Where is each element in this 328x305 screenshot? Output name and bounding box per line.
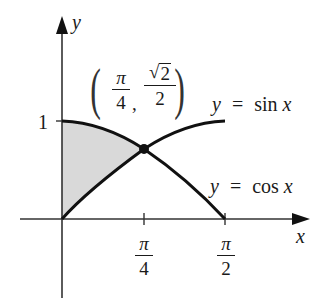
x-tick-label-pi-4: π 4 <box>135 234 153 278</box>
x-tick-label-pi-2: π 2 <box>217 234 235 278</box>
label-x: x <box>283 93 292 115</box>
label-x: x <box>284 175 293 197</box>
label-y: y <box>210 175 219 197</box>
fraction-bar <box>135 255 153 256</box>
figure-canvas <box>0 0 328 305</box>
tick-denominator: 2 <box>221 259 231 278</box>
intersection-y-fraction: √2 2 <box>144 62 176 108</box>
intersection-point <box>139 144 149 154</box>
fraction-bar <box>144 85 176 86</box>
y-denominator: 2 <box>155 89 165 108</box>
intersection-x-fraction: π 4 <box>112 68 130 112</box>
y-axis-label: y <box>72 12 81 32</box>
radicand: 2 <box>159 63 171 83</box>
tick-numerator: π <box>221 234 231 253</box>
label-y: y <box>212 93 221 115</box>
coordinate-comma: , <box>132 94 137 113</box>
x-denominator: 4 <box>116 93 126 112</box>
y-axis-arrowhead <box>56 16 68 34</box>
open-paren: ( <box>90 60 101 118</box>
y-tick-label-1: 1 <box>38 112 48 132</box>
tick-numerator: π <box>139 234 149 253</box>
x-axis-label: x <box>296 226 305 246</box>
radical-sign: √ <box>149 62 159 81</box>
intersection-label: ( π 4 , √2 2 ) <box>92 58 202 128</box>
sqrt-expression: √2 <box>149 62 171 83</box>
fraction-bar <box>112 89 130 90</box>
label-equals: = <box>232 93 243 115</box>
x-axis-arrowhead <box>292 213 310 225</box>
x-numerator: π <box>116 68 126 87</box>
tick-denominator: 4 <box>139 259 149 278</box>
label-func: cos <box>252 175 279 197</box>
close-paren: ) <box>174 60 185 118</box>
sin-curve-label: y = sin x <box>212 94 291 114</box>
label-func: sin <box>254 93 277 115</box>
fraction-bar <box>217 255 235 256</box>
label-equals: = <box>230 175 241 197</box>
cos-curve-label: y = cos x <box>210 176 293 196</box>
